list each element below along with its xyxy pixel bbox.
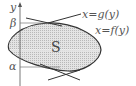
- y-axis-arrow-icon: [18, 2, 22, 7]
- curve-g-leader: [48, 14, 81, 23]
- curve-f-label: x=f(y): [95, 25, 129, 36]
- alpha-label: α: [9, 61, 16, 72]
- area-between-curves-diagram: y β α S x=g(y) x=f(y): [0, 0, 136, 86]
- y-axis-label: y: [10, 2, 16, 13]
- region-s-label: S: [51, 40, 61, 54]
- beta-label: β: [10, 18, 16, 29]
- curve-g-label: x=g(y): [82, 9, 119, 20]
